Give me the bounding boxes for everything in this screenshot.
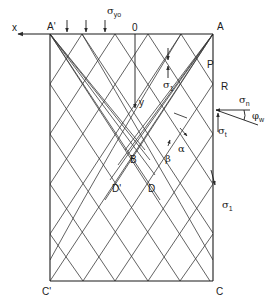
phi-w-label: φw	[252, 110, 265, 123]
sigma-t-label: σt	[218, 125, 227, 138]
surcharge-arrows	[67, 20, 105, 32]
point-label-r: R	[221, 81, 228, 92]
wall-frame	[18, 34, 213, 281]
point-label-d-prime: D'	[112, 183, 121, 194]
slip-line-diagram: x 0 y A' A C' C P R B D' D σyo σ1 σn σt …	[0, 0, 274, 305]
sigma1-wall-label: σ1	[222, 199, 233, 212]
origin-label: 0	[132, 22, 138, 33]
point-label-d: D	[148, 183, 155, 194]
sigma-n-label: σn	[239, 94, 250, 107]
wall-stress-arrows	[211, 110, 258, 185]
point-label-p: P	[207, 59, 214, 70]
corner-label-c-prime: C'	[42, 286, 51, 297]
alpha-label: α	[178, 143, 185, 154]
corner-label-a-prime: A'	[47, 21, 56, 32]
beta-label: β	[165, 153, 171, 164]
sigma-y0-label: σyo	[107, 5, 121, 19]
sigma1-top-label: σ1	[163, 79, 174, 92]
point-label-b: B	[130, 154, 137, 165]
y-axis-label: y	[139, 97, 144, 108]
corner-label-a: A	[217, 21, 224, 32]
corner-label-c: C	[216, 286, 223, 297]
x-axis-label: x	[12, 22, 17, 33]
